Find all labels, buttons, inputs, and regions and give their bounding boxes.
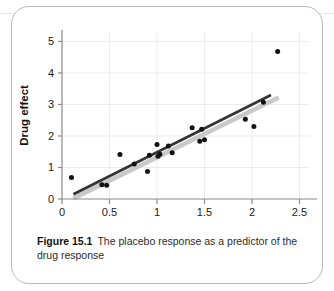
figure-card: 01234500.511.522.5Placebo effectDrug eff… [11,6,323,284]
data-point [275,49,280,54]
data-point [69,175,74,180]
data-point [99,182,104,187]
data-point [251,124,256,129]
x-axis-tick-label: 0.5 [102,206,117,218]
y-axis-tick-label: 2 [48,130,54,142]
data-point [170,150,175,155]
regression-line [73,95,271,194]
x-axis-tick-label: 2 [249,206,255,218]
data-point [104,183,109,188]
regression-confidence-band [73,98,278,199]
data-point [132,162,137,167]
x-axis-tick-label: 1.5 [197,206,212,218]
data-point [199,127,204,132]
data-point [117,152,122,157]
chart-canvas: 01234500.511.522.5Placebo effectDrug eff… [12,7,324,222]
y-axis-title: Drug effect [18,85,30,146]
data-point [166,144,171,149]
y-axis-tick-label: 4 [48,67,54,79]
figure-caption: Figure 15.1The placebo response as a pre… [37,234,299,262]
figure-label: Figure 15.1 [37,235,92,247]
data-point [243,117,248,122]
scatter-plot: 01234500.511.522.5Placebo effectDrug eff… [12,7,324,222]
x-axis-tick-label: 2.5 [292,206,307,218]
data-point [145,169,150,174]
y-axis-tick-label: 1 [48,161,54,173]
x-axis-tick-label: 0 [59,206,65,218]
x-axis-tick-label: 1 [154,206,160,218]
data-point [202,137,207,142]
data-point [190,125,195,130]
data-point [157,152,162,157]
data-point [197,139,202,144]
y-axis-tick-label: 0 [48,193,54,205]
y-axis-tick-label: 3 [48,98,54,110]
y-axis-tick-label: 5 [48,35,54,47]
data-point [147,153,152,158]
data-point [261,100,266,105]
data-point [155,142,160,147]
